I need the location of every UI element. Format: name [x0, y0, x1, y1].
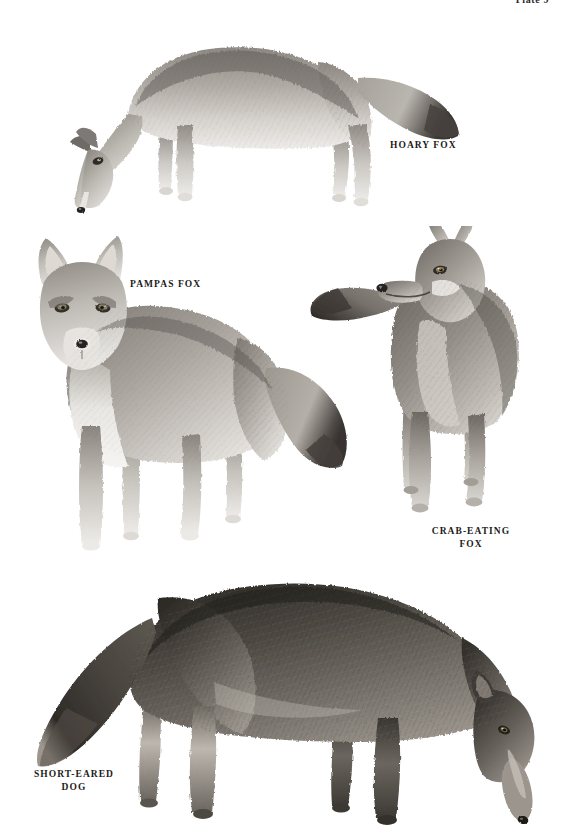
- figure-crab-eating-fox: CRAB-EATING FOX: [308, 226, 540, 530]
- short-eared-dog-drawing: [18, 562, 555, 840]
- caption-hoary-fox: HOARY FOX: [390, 139, 457, 152]
- caption-crab-eating-fox: CRAB-EATING FOX: [416, 525, 526, 551]
- figure-hoary-fox: HOARY FOX: [32, 22, 462, 218]
- caption-short-eared-dog: SHORT-EARED DOG: [14, 768, 134, 794]
- caption-pampas-fox: PAMPAS FOX: [130, 278, 201, 291]
- plate-number: Plate 9: [516, 0, 549, 5]
- hoary-fox-drawing: [32, 22, 462, 218]
- figure-short-eared-dog: SHORT-EARED DOG: [18, 562, 555, 840]
- crab-eating-fox-drawing: [308, 226, 540, 530]
- figure-pampas-fox: PAMPAS FOX: [12, 228, 352, 568]
- plate-page: Plate 9: [0, 0, 561, 840]
